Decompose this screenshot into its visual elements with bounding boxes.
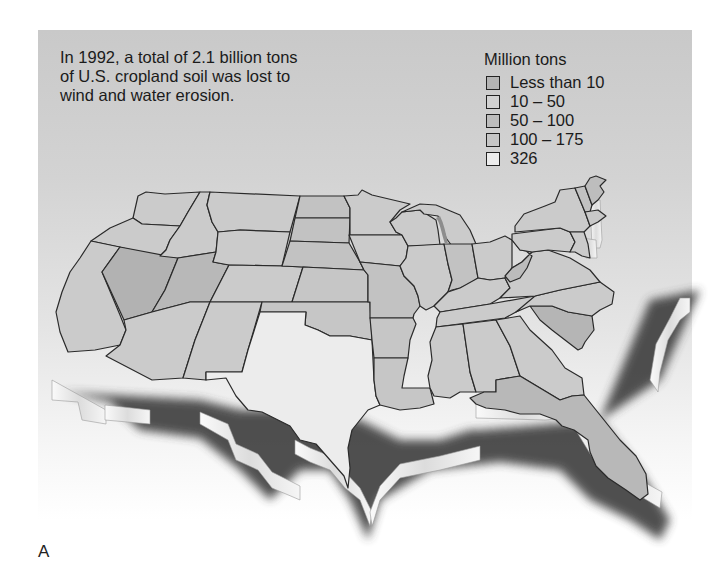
legend-swatch-icon <box>486 95 500 109</box>
legend-swatch-icon <box>486 76 500 90</box>
legend-item: 10 – 50 <box>484 92 605 111</box>
state-nebraska <box>282 241 364 270</box>
caption-line-3: wind and water erosion. <box>60 86 360 105</box>
state-louisiana <box>374 358 434 410</box>
legend-swatch-icon <box>486 152 500 166</box>
legend-item-label: 50 – 100 <box>510 111 574 130</box>
legend-swatch-icon <box>486 114 500 128</box>
state-south-dakota <box>290 218 350 243</box>
legend-item-label: 100 – 175 <box>510 130 583 149</box>
figure-label: A <box>38 542 49 562</box>
legend-swatch-icon <box>486 133 500 147</box>
state-arkansas <box>370 318 416 358</box>
legend-item-label: 326 <box>510 149 538 168</box>
state-ohio <box>472 236 512 280</box>
state-kansas <box>292 267 368 302</box>
legend-item-label: 10 – 50 <box>510 92 565 111</box>
state-montana <box>207 192 300 232</box>
legend-title: Million tons <box>484 50 605 69</box>
legend-item: 326 <box>484 149 605 168</box>
state-mid-atlantic <box>570 232 590 258</box>
legend-item: 100 – 175 <box>484 130 605 149</box>
legend-item: Less than 10 <box>484 73 605 92</box>
map-legend: Million tons Less than 10 10 – 50 50 – 1… <box>484 50 605 168</box>
caption-line-1: In 1992, a total of 2.1 billion tons <box>60 48 360 67</box>
state-north-dakota <box>295 196 350 218</box>
state-wyoming <box>213 230 290 266</box>
legend-item: 50 – 100 <box>484 111 605 130</box>
legend-item-label: Less than 10 <box>510 73 605 92</box>
caption-line-2: of U.S. cropland soil was lost to <box>60 67 360 86</box>
figure-caption: In 1992, a total of 2.1 billion tons of … <box>60 48 360 105</box>
